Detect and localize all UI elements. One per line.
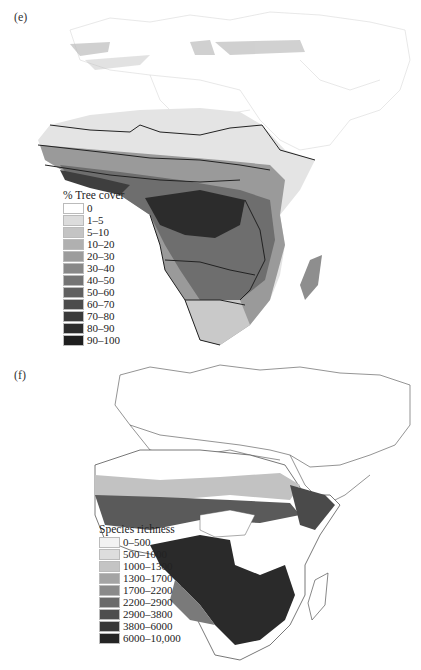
species-richness-legend: Species richness 0–500500–10001000–13001… [99,523,181,644]
legend-swatch [99,537,120,548]
legend-label: 6000–10,000 [123,632,181,644]
legend-label: 0–500 [123,536,151,548]
legend-swatch [63,239,84,250]
legend-label: 2200–2900 [123,596,173,608]
legend-label: 2900–3800 [123,608,173,620]
legend-title: Species richness [99,523,181,535]
legend-item: 10–20 [63,238,124,250]
legend-item: 30–40 [63,262,124,274]
legend-item: 2900–3800 [99,608,181,620]
legend-item: 0 [63,202,124,214]
legend-swatch [63,335,84,346]
legend-item: 5–10 [63,226,124,238]
legend-label: 60–70 [87,298,115,310]
legend-swatch [99,633,120,644]
legend-swatch [99,585,120,596]
legend-item: 2200–2900 [99,596,181,608]
legend-label: 70–80 [87,310,115,322]
legend-item: 50–60 [63,286,124,298]
legend-swatch [63,311,84,322]
legend-item: 3800–6000 [99,620,181,632]
legend-swatch [63,263,84,274]
legend-label: 0 [87,202,93,214]
legend-item: 1–5 [63,214,124,226]
legend-label: 20–30 [87,250,115,262]
legend-swatch [99,549,120,560]
legend-swatch [63,215,84,226]
legend-label: 50–60 [87,286,115,298]
legend-swatch [99,621,120,632]
legend-item: 6000–10,000 [99,632,181,644]
legend-swatch [63,299,84,310]
legend-swatch [63,227,84,238]
legend-item: 1300–1700 [99,572,181,584]
legend-item: 0–500 [99,536,181,548]
legend-swatch [63,275,84,286]
legend-label: 1700–2200 [123,584,173,596]
legend-label: 90–100 [87,334,120,346]
legend-swatch [99,573,120,584]
legend-item: 40–50 [63,274,124,286]
legend-label: 500–1000 [123,548,167,560]
legend-swatch [99,597,120,608]
legend-item: 1700–2200 [99,584,181,596]
legend-label: 30–40 [87,262,115,274]
legend-swatch [63,287,84,298]
legend-label: 5–10 [87,226,109,238]
legend-label: 10–20 [87,238,115,250]
legend-label: 1300–1700 [123,572,173,584]
legend-label: 3800–6000 [123,620,173,632]
legend-swatch [63,203,84,214]
legend-label: 40–50 [87,274,115,286]
legend-label: 80–90 [87,322,115,334]
legend-swatch [99,561,120,572]
legend-swatch [63,251,84,262]
legend-swatch [99,609,120,620]
legend-item: 20–30 [63,250,124,262]
legend-item: 80–90 [63,322,124,334]
tree-cover-legend: % Tree cover 01–55–1010–2020–3030–4040–5… [63,189,124,346]
legend-item: 90–100 [63,334,124,346]
legend-label: 1000–1300 [123,560,173,572]
legend-swatch [63,323,84,334]
legend-title: % Tree cover [63,189,124,201]
legend-item: 60–70 [63,298,124,310]
legend-item: 1000–1300 [99,560,181,572]
legend-item: 70–80 [63,310,124,322]
legend-label: 1–5 [87,214,104,226]
legend-item: 500–1000 [99,548,181,560]
species-richness-map [0,355,421,670]
